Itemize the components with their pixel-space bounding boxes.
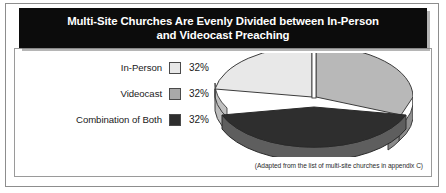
legend-item-label: In-Person xyxy=(121,62,162,73)
legend-item-value: 32% xyxy=(189,114,215,125)
pie-slice-combination-of-both xyxy=(222,107,406,157)
legend-item-label: Videocast xyxy=(120,88,162,99)
legend-item-in-person: In-Person 32% xyxy=(23,61,215,74)
chart-title-line-2: and Videocast Preaching xyxy=(157,29,290,41)
page-title: Multi-Site Churches Are Evenly Divided b… xyxy=(67,14,379,43)
chart-panel: In-Person 32% Videocast 32% Combination … xyxy=(14,48,432,177)
legend-item-combination-of-both: Combination of Both 32% xyxy=(23,113,215,126)
legend-swatch-in-person xyxy=(169,62,181,74)
chart-legend: In-Person 32% Videocast 32% Combination … xyxy=(23,61,215,126)
figure-container: Multi-Site Churches Are Evenly Divided b… xyxy=(0,0,446,193)
legend-swatch-combination-of-both xyxy=(169,114,181,126)
chart-footnote: (Adapted from the list of multi-site chu… xyxy=(255,162,423,169)
pie-chart-svg xyxy=(213,53,413,157)
chart-title-bar: Multi-Site Churches Are Evenly Divided b… xyxy=(19,8,427,48)
legend-item-label: Combination of Both xyxy=(76,114,162,125)
legend-swatch-videocast xyxy=(169,88,181,100)
pie-slice-divider xyxy=(312,53,316,98)
legend-item-videocast: Videocast 32% xyxy=(23,87,215,100)
chart-title-line-1: Multi-Site Churches Are Evenly Divided b… xyxy=(67,15,379,27)
legend-item-value: 32% xyxy=(189,88,215,99)
pie-chart xyxy=(213,53,413,157)
legend-item-value: 32% xyxy=(189,62,215,73)
